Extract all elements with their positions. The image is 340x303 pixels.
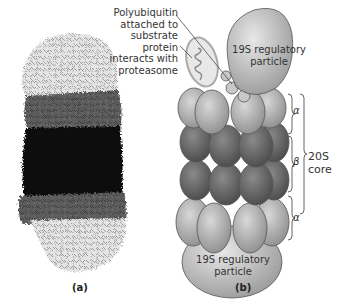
bottom-cap-label-line: particle — [196, 266, 270, 278]
core-label-line: 20S — [308, 150, 332, 163]
annotation-line: substrate protein — [100, 30, 178, 53]
top-cap-label-line: 19S regulatory — [232, 44, 306, 56]
beta-label: β — [293, 156, 299, 168]
alpha-top-label: α — [293, 105, 300, 117]
annotation-line: proteasome — [100, 65, 178, 77]
core-label-line: core — [308, 163, 332, 176]
bottom-cap-label: 19S regulatory particle — [196, 254, 270, 277]
alpha-bottom-label: α — [293, 212, 300, 224]
substrate-protein — [181, 34, 223, 90]
annotation-line: Polyubiquitin — [100, 7, 178, 19]
top-cap-label-line: particle — [232, 56, 306, 68]
beta-ring-lower — [180, 160, 289, 205]
figure: Polyubiquitin attached to substrate prot… — [0, 0, 340, 303]
brace-20s-core — [300, 94, 307, 214]
annotation-line: interacts with — [100, 53, 178, 65]
annotation-line: attached to — [100, 19, 178, 31]
top-cap-label: 19S regulatory particle — [232, 44, 306, 67]
20s-core-label: 20S core — [308, 150, 332, 176]
beta-ring-upper — [180, 122, 289, 167]
structure-bottom-cap — [30, 218, 126, 272]
structure-upper-ring — [24, 90, 121, 132]
panel-b-label: (b) — [235, 282, 251, 293]
structure-core — [22, 126, 122, 198]
polyubiquitin-annotation: Polyubiquitin attached to substrate prot… — [100, 7, 178, 76]
bottom-cap-label-line: 19S regulatory — [196, 254, 270, 266]
panel-a-label: (a) — [72, 282, 88, 293]
